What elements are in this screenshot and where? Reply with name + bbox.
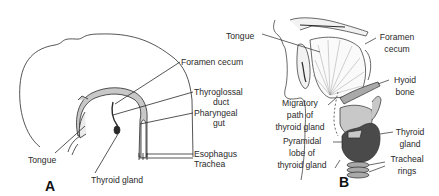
label-tongue-a: Tongue <box>28 155 56 165</box>
migratory-path <box>334 92 338 136</box>
label-thyroid-gland-b-line2: gland <box>390 139 430 149</box>
label-foramen-cecum-b-line2: cecum <box>377 44 417 54</box>
thyroid-gland-a <box>114 126 120 134</box>
label-migratory-path: Migratory <box>270 98 330 108</box>
label-foramen-cecum-a: Foramen cecum <box>181 57 243 67</box>
label-pharyngeal-gut: Pharyngeal <box>194 108 237 118</box>
label-tracheal-rings-line2: rings <box>384 166 430 176</box>
label-migratory-path-line3: thyroid gland <box>268 122 332 132</box>
label-pyramidal-lobe-line2: lobe of <box>272 148 332 158</box>
label-hyoid-bone-line2: bone <box>390 87 420 97</box>
panel-letter-b: B <box>339 174 349 190</box>
label-esophagus: Esophagus <box>194 149 237 159</box>
label-thyroglossal-duct-a-line2: duct <box>213 97 229 107</box>
panel-letter-a: A <box>45 178 55 194</box>
label-pyramidal-lobe: Pyramidal <box>272 136 332 146</box>
label-thyroid-gland-a: Thyroid gland <box>91 175 143 185</box>
gut-loop <box>141 120 146 157</box>
label-tracheal-rings: Tracheal <box>384 154 430 164</box>
label-tongue-b: Tongue <box>226 31 254 41</box>
palate <box>290 18 368 36</box>
label-foramen-cecum-b: Foramen <box>377 32 417 42</box>
label-hyoid-bone: Hyoid <box>390 75 420 85</box>
head-outline <box>20 34 193 157</box>
panel-a-drawing <box>20 34 193 173</box>
label-thyroid-gland-b: Thyroid <box>390 127 430 137</box>
label-thyroglossal-duct-a: Thyroglossal <box>194 87 243 97</box>
label-pharyngeal-gut-line2: gut <box>213 118 225 128</box>
tracheal-rings <box>347 162 369 178</box>
label-pyramidal-lobe-line3: thyroid gland <box>270 160 334 170</box>
label-migratory-path-line2: path of <box>270 110 330 120</box>
label-trachea: Trachea <box>194 159 225 169</box>
